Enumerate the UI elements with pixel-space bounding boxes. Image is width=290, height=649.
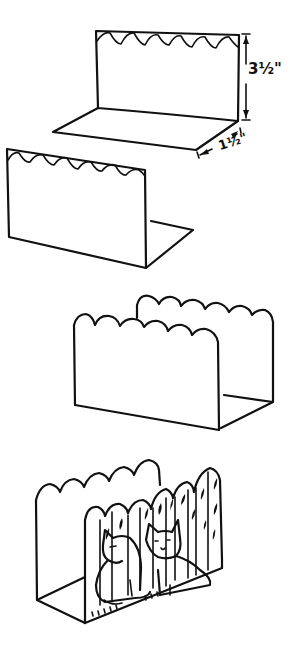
step-4-figure [36, 460, 222, 623]
step-2-figure [7, 149, 193, 268]
step-3-figure [74, 296, 273, 430]
diagram-canvas [0, 0, 290, 649]
height-dimension-label: 3½" [248, 60, 282, 78]
